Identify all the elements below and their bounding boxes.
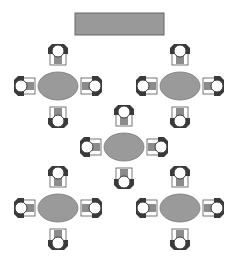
chair[interactable] bbox=[203, 76, 224, 96]
chair[interactable] bbox=[170, 107, 190, 128]
chair[interactable] bbox=[136, 76, 157, 96]
table-3 bbox=[80, 105, 168, 189]
chair[interactable] bbox=[147, 137, 168, 157]
person-icon bbox=[174, 167, 186, 179]
chair[interactable] bbox=[48, 166, 68, 187]
floor-plan bbox=[0, 0, 243, 264]
person-icon bbox=[211, 80, 223, 92]
person-icon bbox=[174, 45, 186, 57]
chair[interactable] bbox=[14, 76, 35, 96]
person-icon bbox=[174, 115, 186, 127]
person-icon bbox=[137, 202, 149, 214]
person-icon bbox=[52, 237, 64, 249]
chair[interactable] bbox=[48, 44, 68, 65]
chair[interactable] bbox=[114, 105, 134, 126]
person-icon bbox=[118, 176, 130, 188]
chair[interactable] bbox=[170, 166, 190, 187]
chair[interactable] bbox=[203, 198, 224, 218]
round-table[interactable] bbox=[160, 194, 200, 222]
chair[interactable] bbox=[136, 198, 157, 218]
person-icon bbox=[137, 80, 149, 92]
chair[interactable] bbox=[48, 107, 68, 128]
person-icon bbox=[89, 202, 101, 214]
person-icon bbox=[89, 80, 101, 92]
person-icon bbox=[52, 115, 64, 127]
chair[interactable] bbox=[80, 137, 101, 157]
person-icon bbox=[174, 237, 186, 249]
round-table[interactable] bbox=[38, 194, 78, 222]
chair[interactable] bbox=[48, 229, 68, 250]
person-icon bbox=[15, 80, 27, 92]
person-icon bbox=[52, 167, 64, 179]
round-table[interactable] bbox=[160, 72, 200, 100]
person-icon bbox=[52, 45, 64, 57]
table-4 bbox=[14, 166, 102, 250]
head-table[interactable] bbox=[75, 13, 164, 35]
person-icon bbox=[15, 202, 27, 214]
table-2 bbox=[136, 44, 224, 128]
chair[interactable] bbox=[81, 76, 102, 96]
round-table[interactable] bbox=[38, 72, 78, 100]
chair[interactable] bbox=[170, 229, 190, 250]
person-icon bbox=[118, 106, 130, 118]
chair[interactable] bbox=[114, 168, 134, 189]
round-table[interactable] bbox=[104, 133, 144, 161]
chair[interactable] bbox=[170, 44, 190, 65]
table-5 bbox=[136, 166, 224, 250]
person-icon bbox=[81, 141, 93, 153]
chair[interactable] bbox=[81, 198, 102, 218]
chair[interactable] bbox=[14, 198, 35, 218]
table-1 bbox=[14, 44, 102, 128]
person-icon bbox=[155, 141, 167, 153]
person-icon bbox=[211, 202, 223, 214]
